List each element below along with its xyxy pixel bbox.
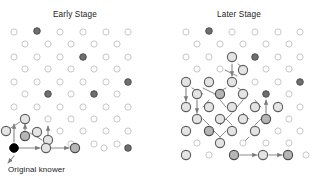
network-edge: [8, 156, 14, 163]
node-unaware: [297, 104, 303, 110]
node-aware: [181, 102, 190, 111]
node-adopter: [70, 143, 79, 152]
node-dark-adopter: [34, 28, 41, 35]
node-unaware: [217, 41, 223, 47]
node-unaware: [80, 29, 86, 35]
node-aware: [1, 126, 10, 135]
node-aware: [273, 102, 282, 111]
node-unaware: [263, 140, 269, 146]
node-unaware: [103, 79, 109, 85]
node-dark-adopter: [91, 91, 98, 98]
node-unaware: [114, 66, 120, 72]
node-unaware: [103, 29, 109, 35]
node-unaware: [11, 29, 17, 35]
network-edge: [255, 119, 261, 125]
node-unaware: [11, 54, 17, 60]
node-aware: [192, 89, 201, 98]
node-unaware: [286, 91, 292, 97]
network-edge: [225, 70, 237, 76]
node-dark-adopter: [125, 79, 132, 86]
node-unaware: [22, 91, 28, 97]
node-dark-adopter: [206, 28, 213, 35]
node-unaware: [68, 66, 74, 72]
node-original-knower: [10, 144, 19, 153]
node-unaware: [91, 66, 97, 72]
node-unaware: [217, 66, 223, 72]
node-unaware: [240, 41, 246, 47]
node-unaware: [68, 41, 74, 47]
node-aware: [227, 77, 236, 86]
network-nodes-layer: [1, 28, 309, 160]
node-unaware: [91, 141, 97, 147]
node-aware: [227, 52, 236, 61]
diffusion-figure: Diffusion of Innovation Early Stage Late…: [0, 0, 314, 183]
network-edge: [203, 88, 215, 94]
node-unaware: [286, 116, 292, 122]
node-unaware: [103, 104, 109, 110]
node-unaware: [125, 54, 131, 60]
node-unaware: [11, 79, 17, 85]
node-dark-adopter: [297, 79, 304, 86]
node-aware: [215, 138, 224, 147]
node-unaware: [286, 66, 292, 72]
node-unaware: [194, 140, 200, 146]
node-unaware: [57, 128, 63, 134]
node-aware: [181, 150, 190, 159]
node-unaware: [68, 91, 74, 97]
original-knower-caption: Original knower: [8, 165, 65, 174]
node-unaware: [286, 41, 292, 47]
node-unaware: [80, 79, 86, 85]
node-unaware: [91, 116, 97, 122]
node-unaware: [57, 54, 63, 60]
network-edge: [203, 119, 209, 125]
node-unaware: [22, 66, 28, 72]
node-dark-adopter: [80, 54, 87, 61]
node-aware: [181, 126, 190, 135]
node-unaware: [206, 152, 212, 158]
node-unaware: [11, 104, 17, 110]
network-edge: [220, 100, 226, 107]
node-unaware: [80, 128, 86, 134]
node-unaware: [34, 104, 40, 110]
node-aware: [192, 114, 201, 123]
node-unaware: [297, 128, 303, 134]
node-unaware: [297, 29, 303, 35]
node-unaware: [114, 91, 120, 97]
node-unaware: [45, 116, 51, 122]
network-edge: [226, 119, 232, 125]
node-adopter: [215, 89, 224, 98]
node-adopter: [204, 126, 213, 135]
node-unaware: [34, 79, 40, 85]
node-unaware: [275, 54, 281, 60]
node-unaware: [125, 128, 131, 134]
node-unaware: [275, 128, 281, 134]
node-unaware: [91, 41, 97, 47]
node-unaware: [22, 41, 28, 47]
node-dark-adopter: [45, 91, 52, 98]
node-unaware: [275, 29, 281, 35]
node-aware: [238, 89, 247, 98]
node-aware: [250, 102, 259, 111]
node-dark-adopter: [125, 145, 132, 152]
node-aware: [204, 77, 213, 86]
node-unaware: [57, 29, 63, 35]
node-unaware: [297, 54, 303, 60]
node-unaware: [183, 54, 189, 60]
node-aware: [20, 114, 29, 123]
node-adopter: [261, 114, 270, 123]
node-unaware: [206, 54, 212, 60]
node-aware: [238, 65, 247, 74]
node-unaware: [263, 66, 269, 72]
node-unaware: [68, 116, 74, 122]
node-unaware: [57, 104, 63, 110]
node-unaware: [57, 79, 63, 85]
node-unaware: [125, 29, 131, 35]
node-unaware: [252, 29, 258, 35]
network-edge: [214, 131, 220, 137]
node-unaware: [252, 79, 258, 85]
node-unaware: [45, 66, 51, 72]
node-unaware: [229, 29, 235, 35]
node-unaware: [183, 29, 189, 35]
node-unaware: [240, 140, 246, 146]
node-aware: [181, 77, 190, 86]
